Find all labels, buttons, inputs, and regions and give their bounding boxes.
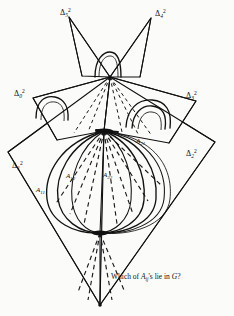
diagram-svg: .s { fill:none; stroke:#111; stroke-widt… [0, 0, 234, 316]
label-arc-a11: A11 [36, 186, 45, 195]
label-simplex-0: Δ02 [14, 88, 25, 99]
figure-caption: Which of Aij's lie in G? [111, 272, 180, 282]
label-simplex-5: Δ52 [60, 7, 71, 18]
label-arc-a21: A21 [136, 137, 145, 146]
label-simplex-1: Δ12 [12, 160, 23, 171]
label-arc-a12: A12 [66, 172, 75, 181]
label-simplex-3: Δ32 [186, 90, 197, 101]
label-simplex-2: Δ22 [186, 148, 197, 159]
figure-canvas: .s { fill:none; stroke:#111; stroke-widt… [0, 0, 234, 316]
label-simplex-4: Δ42 [155, 8, 166, 19]
label-arc-a22: A22 [103, 171, 112, 180]
